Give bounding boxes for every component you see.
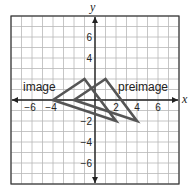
y-tick-label: −6 <box>81 158 93 169</box>
y-tick-label: −2 <box>81 116 93 127</box>
image-label: image <box>23 80 56 94</box>
x-tick-label: 6 <box>155 102 161 113</box>
axes <box>12 17 178 183</box>
y-tick-label: 4 <box>86 53 92 64</box>
x-tick-label: −6 <box>24 102 36 113</box>
x-tick-label: −4 <box>45 102 57 113</box>
y-axis-label: y <box>89 0 96 14</box>
y-tick-label: 6 <box>86 32 92 43</box>
coordinate-plane: −6−424664−2−4−6 image preimage x y <box>0 0 193 188</box>
x-tick-label: 4 <box>134 102 140 113</box>
x-tick-label: 2 <box>113 102 119 113</box>
x-axis-label: x <box>181 92 188 106</box>
y-tick-label: −4 <box>81 137 93 148</box>
preimage-label: preimage <box>118 80 168 94</box>
